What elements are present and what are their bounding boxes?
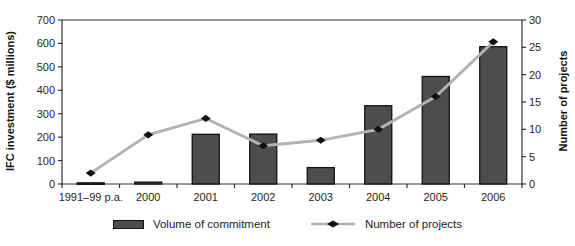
chart: 01002003004005006007000510152025301991–9… bbox=[0, 0, 575, 246]
svg-text:200: 200 bbox=[37, 131, 55, 143]
svg-text:25: 25 bbox=[529, 41, 541, 53]
svg-text:15: 15 bbox=[529, 96, 541, 108]
svg-text:2002: 2002 bbox=[251, 191, 275, 203]
right-y-axis-title: Number of projects bbox=[557, 51, 569, 152]
svg-text:2004: 2004 bbox=[366, 191, 390, 203]
line-marker-swatch-icon bbox=[310, 219, 356, 229]
legend-item-projects: Number of projects bbox=[310, 218, 462, 230]
svg-text:300: 300 bbox=[37, 108, 55, 120]
svg-text:10: 10 bbox=[529, 123, 541, 135]
legend-label-projects: Number of projects bbox=[365, 218, 462, 230]
legend-label-volume: Volume of commitment bbox=[153, 218, 270, 230]
svg-text:30: 30 bbox=[529, 14, 541, 26]
svg-text:1991–99 p.a.: 1991–99 p.a. bbox=[59, 191, 123, 203]
svg-text:400: 400 bbox=[37, 84, 55, 96]
legend: Volume of commitment Number of projects bbox=[0, 218, 575, 230]
chart-plot-area: 01002003004005006007000510152025301991–9… bbox=[0, 0, 575, 246]
svg-text:500: 500 bbox=[37, 61, 55, 73]
svg-text:100: 100 bbox=[37, 155, 55, 167]
svg-text:2001: 2001 bbox=[194, 191, 218, 203]
svg-text:2003: 2003 bbox=[309, 191, 333, 203]
svg-text:2006: 2006 bbox=[481, 191, 505, 203]
bar-swatch-icon bbox=[113, 220, 144, 229]
svg-text:2005: 2005 bbox=[424, 191, 448, 203]
svg-text:700: 700 bbox=[37, 14, 55, 26]
svg-text:0: 0 bbox=[529, 178, 535, 190]
svg-text:20: 20 bbox=[529, 69, 541, 81]
svg-text:5: 5 bbox=[529, 151, 535, 163]
svg-text:600: 600 bbox=[37, 37, 55, 49]
svg-text:0: 0 bbox=[49, 178, 55, 190]
legend-item-volume: Volume of commitment bbox=[113, 218, 270, 230]
svg-text:2000: 2000 bbox=[136, 191, 160, 203]
left-y-axis-title: IFC investment ($ millions) bbox=[4, 31, 16, 171]
